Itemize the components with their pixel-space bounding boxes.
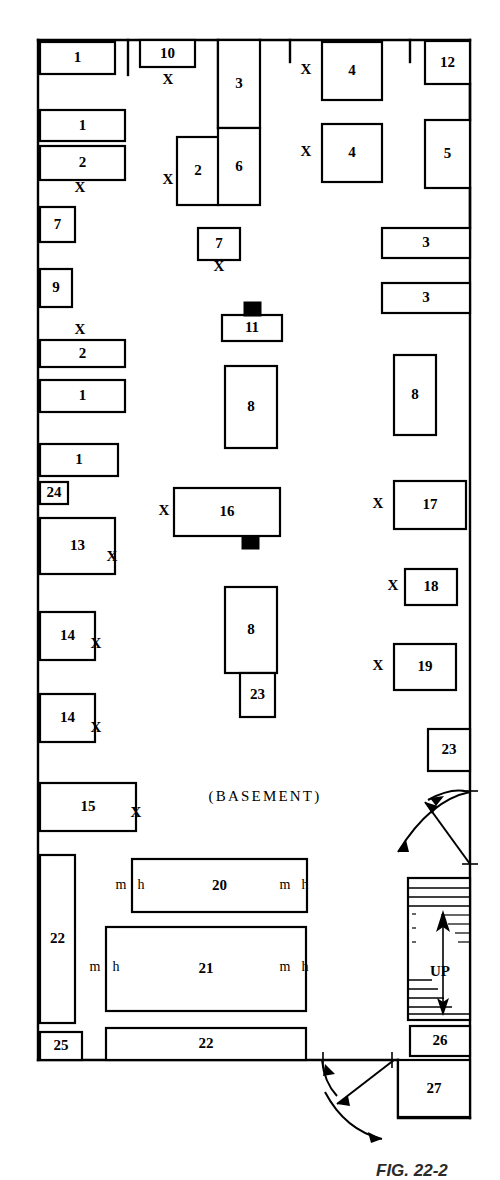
- room-19: 19: [394, 644, 456, 690]
- room-number-label: 22: [199, 1035, 214, 1051]
- room-6: 6: [218, 128, 260, 205]
- room-7: 7: [40, 207, 75, 242]
- room-number-label: 19: [418, 658, 433, 674]
- room-13: 13: [40, 518, 115, 574]
- room-26: 26: [410, 1026, 470, 1056]
- room-3: 3: [218, 40, 260, 128]
- figure-caption: FIG. 22-2: [376, 1161, 448, 1180]
- room-number-label: 8: [411, 386, 419, 402]
- room-number-label: 15: [81, 798, 96, 814]
- x-marker: X: [159, 502, 170, 518]
- m-marker: m: [280, 959, 291, 974]
- room-16: 16: [174, 488, 280, 536]
- room-number-label: 1: [74, 49, 82, 65]
- room-number-label: 16: [220, 503, 236, 519]
- x-marker: X: [163, 171, 174, 187]
- room-22: 22: [40, 855, 75, 1023]
- room-number-label: 22: [50, 930, 65, 946]
- room-22: 22: [106, 1028, 306, 1060]
- room-1: 1: [40, 110, 125, 141]
- room-10: 10: [140, 40, 195, 67]
- room-number-label: 2: [79, 154, 87, 170]
- room-number-label: 12: [440, 54, 455, 70]
- room-number-label: 8: [247, 398, 255, 414]
- x-marker: X: [91, 635, 102, 651]
- room-number-label: 8: [247, 621, 255, 637]
- door-arc-bottom-large: [325, 1092, 382, 1139]
- room-number-label: 4: [348, 62, 356, 78]
- x-marker: X: [163, 71, 174, 87]
- x-marker: X: [301, 61, 312, 77]
- door-swing-bottom: [322, 1052, 394, 1143]
- room-2: 2: [177, 137, 219, 205]
- door-arc-bottom-up: [322, 1060, 337, 1096]
- x-marker: X: [75, 179, 86, 195]
- door-leaf-bottom: [337, 1060, 394, 1104]
- room-21: 21: [106, 927, 306, 1011]
- room-17: 17: [394, 481, 466, 529]
- room-number-label: 1: [79, 117, 87, 133]
- room-4: 4: [322, 42, 382, 100]
- x-marker: X: [91, 719, 102, 735]
- h-marker: h: [302, 877, 309, 892]
- x-marker: X: [373, 657, 384, 673]
- room-4: 4: [322, 124, 382, 182]
- m-marker: m: [280, 877, 291, 892]
- room-11: 11: [222, 315, 282, 341]
- room-8: 8: [225, 587, 277, 673]
- room-12: 12: [425, 41, 470, 84]
- rooms-layer: 1103412122645773931121881241617131881914…: [40, 40, 470, 1117]
- room-number-label: 24: [47, 484, 63, 500]
- room-number-label: 20: [212, 877, 227, 893]
- room-14: 14: [40, 694, 95, 742]
- basement-area-label: (BASEMENT): [209, 788, 322, 805]
- x-marker: X: [214, 258, 225, 274]
- room-24: 24: [40, 482, 68, 504]
- m-marker: m: [116, 877, 127, 892]
- room-2: 2: [40, 146, 125, 180]
- stairwell: UP: [408, 878, 470, 1020]
- room-2: 2: [40, 340, 125, 367]
- room-23: 23: [428, 729, 470, 771]
- pier-below-room-16: [242, 536, 259, 549]
- room-number-label: 1: [79, 387, 87, 403]
- room-number-label: 11: [245, 319, 259, 335]
- room-1: 1: [40, 444, 118, 476]
- room-18: 18: [405, 569, 457, 605]
- room-number-label: 26: [433, 1032, 449, 1048]
- room-number-label: 3: [422, 234, 430, 250]
- room-7: 7: [198, 228, 240, 260]
- m-marker: m: [90, 959, 101, 974]
- room-number-label: 6: [235, 158, 243, 174]
- room-number-label: 3: [235, 75, 243, 91]
- x-marker: X: [373, 495, 384, 511]
- room-25: 25: [40, 1032, 82, 1060]
- room-number-label: 10: [160, 45, 175, 61]
- room-number-label: 17: [423, 496, 439, 512]
- room-27: 27: [398, 1060, 470, 1117]
- room-number-label: 14: [60, 709, 76, 725]
- room-number-label: 5: [444, 145, 452, 161]
- room-1: 1: [40, 42, 115, 74]
- room-number-label: 18: [424, 578, 439, 594]
- room-number-label: 13: [70, 537, 85, 553]
- door-leaf-bottom-arrowhead: [337, 1096, 350, 1106]
- room-23: 23: [240, 673, 275, 717]
- room-number-label: 2: [194, 162, 202, 178]
- room-number-label: 1: [75, 451, 83, 467]
- room-number-label: 14: [60, 627, 76, 643]
- room-number-label: 25: [54, 1037, 69, 1053]
- room-number-label: 4: [348, 144, 356, 160]
- room-number-label: 21: [199, 960, 214, 976]
- room-15: 15: [40, 783, 136, 831]
- door-swing-right: [398, 791, 478, 864]
- floor-plan-svg: 1103412122645773931121881241617131881914…: [0, 0, 500, 1180]
- floor-plan-figure: 1103412122645773931121881241617131881914…: [0, 0, 500, 1180]
- room-5: 5: [425, 120, 470, 188]
- room-8: 8: [225, 366, 277, 448]
- room-9: 9: [40, 269, 72, 307]
- room-number-label: 7: [215, 235, 223, 251]
- room-3: 3: [382, 228, 470, 258]
- pier-above-room-11: [244, 302, 261, 316]
- x-marker: X: [301, 143, 312, 159]
